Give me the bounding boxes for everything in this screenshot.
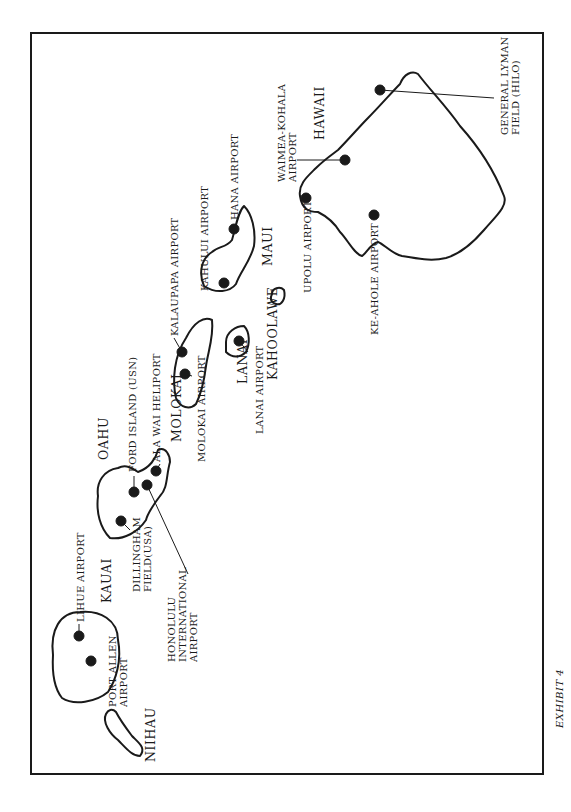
airport-label-kalaupapa: KALAUPAPA AIRPORT	[169, 217, 180, 336]
airport-label-port-allen-2: AIRPORT	[118, 657, 129, 707]
airport-label-kahului: KAHULUI AIRPORT	[199, 186, 210, 291]
island-label-niihau: NIIHAU	[145, 707, 156, 762]
airport-label-hilo-2: FIELD (HILO)	[510, 60, 521, 135]
airport-label-lanai: LANAI AIRPORT	[254, 345, 265, 434]
airport-label-dillingham-2: FIELD(USA)	[142, 526, 153, 592]
island-label-kahoolawe: KAHOOLAWE	[267, 287, 278, 380]
airport-label-hilo-1: GENERAL LYMAN	[499, 36, 510, 135]
airport-label-port-allen-1: PORT ALLEN	[107, 635, 118, 707]
airport-label-honolulu-1: HONOLULU	[166, 597, 177, 662]
island-label-maui: MAUI	[262, 226, 273, 266]
island-label-hawaii: HAWAII	[314, 86, 325, 140]
airport-label-upolu: UPOLU AIRPORT	[302, 200, 313, 293]
island-label-kauai: KAUAI	[101, 558, 112, 603]
airport-label-dillingham-1: DILLINGHAM	[131, 517, 142, 592]
airport-label-waimea-1: WAIMEA-KOHALA	[276, 84, 287, 182]
airport-label-hana: HANA AIRPORT	[229, 134, 240, 220]
leader-honolulu	[147, 485, 188, 574]
airport-label-honolulu-3: AIRPORT	[188, 612, 199, 662]
island-label-lanai: LANAI	[237, 339, 248, 384]
airport-label-keahole: KE-AHOLE AIRPORT	[369, 223, 380, 335]
airport-label-molokai: MOLOKAI AIRPORT	[196, 355, 207, 462]
airport-label-ala-wai: ALA WAI HELIPORT	[151, 353, 162, 462]
airport-label-lihue: LIHUE AIRPORT	[75, 532, 86, 622]
airport-dot-kahului	[219, 278, 229, 288]
airport-label-honolulu-2: INTERNATIONAL	[177, 567, 188, 662]
island-label-oahu: OAHU	[98, 417, 109, 460]
airport-dot-keahole	[369, 210, 379, 220]
island-label-molokai: MOLOKAI	[171, 373, 182, 442]
leader-hilo	[380, 90, 494, 98]
airport-label-waimea-2: AIRPORT	[287, 132, 298, 182]
exhibit-caption: EXHIBIT 4	[554, 669, 565, 728]
airport-dot-hana	[229, 224, 239, 234]
airport-dot-port-allen	[86, 656, 96, 666]
airport-label-ford-island: FORD ISLAND (USN)	[127, 357, 138, 472]
